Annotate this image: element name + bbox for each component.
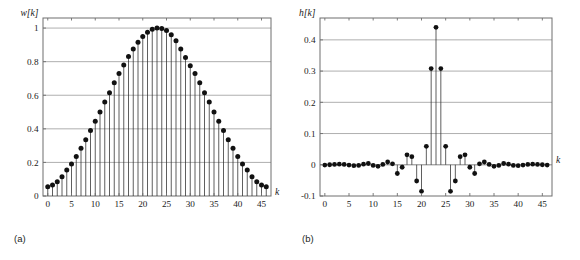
y-tick-label: 0 <box>34 191 39 201</box>
x-tick-label: 5 <box>347 199 352 209</box>
data-point-marker <box>159 26 164 31</box>
window-function-plot: 05101520253035404500.20.40.60.81w[k]k <box>0 0 290 230</box>
data-point-marker <box>107 90 112 95</box>
data-point-marker <box>337 162 342 167</box>
data-point-marker <box>506 162 511 167</box>
data-point-marker <box>463 152 468 157</box>
data-point-marker <box>385 160 390 165</box>
data-point-marker <box>69 162 74 167</box>
data-point-marker <box>178 47 183 52</box>
y-tick-label: 0 <box>311 160 316 170</box>
data-point-marker <box>390 161 395 166</box>
data-point-marker <box>164 28 169 33</box>
y-tick-label: 0.3 <box>304 66 316 76</box>
data-point-marker <box>472 171 477 176</box>
data-point-marker <box>361 162 366 167</box>
data-point-marker <box>521 163 526 168</box>
data-point-marker <box>477 161 482 166</box>
data-point-marker <box>376 164 381 169</box>
x-tick-label: 35 <box>209 199 219 209</box>
x-tick-label: 10 <box>91 199 101 209</box>
data-point-marker <box>511 163 516 168</box>
x-tick-label: 5 <box>69 199 74 209</box>
data-point-marker <box>414 179 419 184</box>
y-tick-label: 0.4 <box>304 35 316 45</box>
data-point-marker <box>525 162 530 167</box>
data-point-marker <box>540 162 545 167</box>
figure-container: 05101520253035404500.20.40.60.81w[k]k (a… <box>0 0 580 260</box>
data-point-marker <box>112 80 117 85</box>
data-point-marker <box>202 90 207 95</box>
data-point-marker <box>131 47 136 52</box>
data-point-marker <box>366 161 371 166</box>
data-point-marker <box>155 26 160 31</box>
x-tick-label: 30 <box>186 199 196 209</box>
data-point-marker <box>140 34 145 39</box>
data-point-marker <box>50 183 55 188</box>
data-point-marker <box>64 167 69 172</box>
chart-panel-a: 05101520253035404500.20.40.60.81w[k]k (a… <box>0 0 290 260</box>
data-point-marker <box>380 162 385 167</box>
y-tick-label: 0.1 <box>304 129 316 139</box>
data-point-marker <box>395 171 400 176</box>
x-tick-label: 25 <box>162 199 172 209</box>
data-point-marker <box>197 80 202 85</box>
data-point-marker <box>93 119 98 124</box>
data-point-marker <box>259 183 264 188</box>
data-point-marker <box>545 163 550 168</box>
y-tick-label: -0.1 <box>301 191 316 201</box>
data-point-marker <box>88 128 93 133</box>
panel-b-caption: (b) <box>302 233 314 244</box>
data-point-marker <box>188 63 193 68</box>
data-point-marker <box>55 179 60 184</box>
data-point-marker <box>136 40 141 45</box>
y-tick-label: 0.2 <box>27 158 39 168</box>
data-point-marker <box>45 184 50 189</box>
y-axis-label: w[k] <box>20 7 38 18</box>
x-tick-label: 25 <box>441 199 451 209</box>
data-point-marker <box>356 163 361 168</box>
data-point-marker <box>145 30 150 35</box>
data-point-marker <box>327 162 332 167</box>
x-tick-label: 45 <box>257 199 267 209</box>
data-point-marker <box>79 146 84 151</box>
data-point-marker <box>351 163 356 168</box>
data-point-marker <box>117 71 122 76</box>
data-point-marker <box>530 162 535 167</box>
x-tick-label: 0 <box>323 199 328 209</box>
x-tick-label: 15 <box>114 199 124 209</box>
data-point-marker <box>535 162 540 167</box>
x-tick-label: 45 <box>538 199 548 209</box>
data-point-marker <box>443 144 448 149</box>
y-tick-label: 0.4 <box>27 124 39 134</box>
data-point-marker <box>240 162 245 167</box>
x-tick-label: 0 <box>45 199 50 209</box>
data-point-marker <box>169 32 174 37</box>
y-tick-label: 0.2 <box>304 98 316 108</box>
data-point-marker <box>254 179 259 184</box>
x-tick-label: 40 <box>514 199 524 209</box>
data-point-marker <box>83 137 88 142</box>
chart-panel-b: 051015202530354045-0.100.10.20.30.4h[k]k… <box>290 0 580 260</box>
data-point-marker <box>453 179 458 184</box>
data-point-marker <box>405 152 410 157</box>
x-tick-label: 20 <box>138 199 148 209</box>
data-point-marker <box>332 162 337 167</box>
x-tick-label: 40 <box>233 199 243 209</box>
data-point-marker <box>400 165 405 170</box>
data-point-marker <box>193 71 198 76</box>
data-point-marker <box>487 162 492 167</box>
data-point-marker <box>250 174 255 179</box>
x-axis-label: k <box>275 186 280 197</box>
data-point-marker <box>458 154 463 159</box>
data-point-marker <box>74 154 79 159</box>
data-point-marker <box>482 160 487 165</box>
data-point-marker <box>264 184 269 189</box>
y-tick-label: 0.6 <box>27 91 39 101</box>
data-point-marker <box>467 165 472 170</box>
data-point-marker <box>207 99 212 104</box>
data-point-marker <box>496 163 501 168</box>
data-point-marker <box>126 54 131 59</box>
x-tick-label: 35 <box>489 199 499 209</box>
data-point-marker <box>212 110 217 115</box>
